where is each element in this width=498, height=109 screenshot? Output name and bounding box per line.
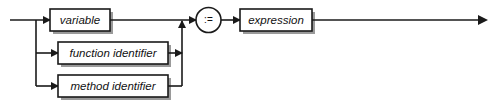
node-variable[interactable]: variable: [50, 9, 113, 34]
operator-to-expression-track: [221, 16, 241, 24]
expression-label: expression: [248, 14, 304, 26]
merge-up-arrowhead-icon: [178, 20, 186, 28]
variable-label: variable: [60, 14, 100, 26]
exit-arrowhead-icon: [478, 15, 488, 25]
node-function-identifier[interactable]: function identifier: [58, 42, 171, 67]
exit-track: [312, 15, 488, 25]
assign-operator-label: :=: [204, 14, 213, 25]
entry-track: [10, 16, 51, 24]
railroad-diagram: variable function identifier method iden…: [0, 0, 498, 109]
node-method-identifier[interactable]: method identifier: [58, 75, 171, 100]
railroad-diagram-canvas: variable function identifier method iden…: [0, 0, 498, 109]
node-assign-operator[interactable]: :=: [196, 8, 221, 33]
node-expression[interactable]: expression: [240, 9, 315, 34]
method-identifier-label: method identifier: [70, 80, 156, 92]
function-identifier-label: function identifier: [70, 47, 158, 59]
